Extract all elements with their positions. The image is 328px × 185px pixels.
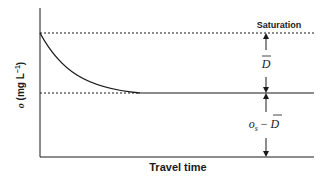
x-axis-label: Travel time (149, 161, 206, 173)
d-bar-label: D (270, 117, 280, 131)
oxygen-deficit-diagram: Saturation D os − D o (mg L−1) Travel ti… (0, 0, 328, 185)
minus-sign: − (258, 117, 271, 131)
saturation-label: Saturation (257, 20, 302, 30)
deficit-label: D (261, 57, 271, 71)
svg-text:os − D: os − D (249, 117, 280, 133)
y-axis-label: o (mg L−1) (14, 62, 26, 108)
decay-curve (40, 33, 140, 93)
lower-label: os − D (249, 115, 282, 133)
